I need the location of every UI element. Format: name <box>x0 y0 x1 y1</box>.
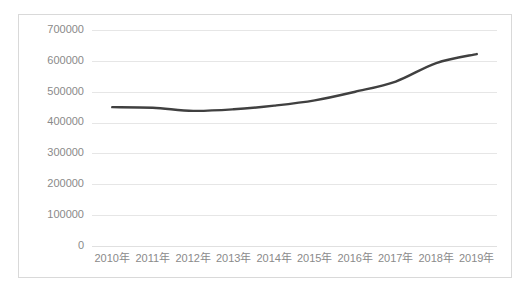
y-axis-tick-label: 100000 <box>47 208 84 220</box>
y-axis-tick-label: 500000 <box>47 85 84 97</box>
y-axis-tick-label: 300000 <box>47 146 84 158</box>
x-axis-tick-label: 2011年 <box>135 251 170 264</box>
y-axis-tick-label: 600000 <box>47 54 84 66</box>
x-axis-tick-label: 2018年 <box>419 251 454 264</box>
x-axis-tick-label: 2013年 <box>216 251 251 264</box>
x-axis-tick-label: 2016年 <box>338 251 373 264</box>
y-axis-tick-label: 0 <box>78 239 84 251</box>
y-axis-tick-label: 700000 <box>47 23 84 35</box>
line-chart-svg: 0100000200000300000400000500000600000700… <box>19 15 511 277</box>
chart-plot-container: 0100000200000300000400000500000600000700… <box>19 15 511 277</box>
x-axis-tick-label: 2012年 <box>176 251 211 264</box>
x-axis-tick-label: 2014年 <box>257 251 292 264</box>
x-axis-tick-label: 2010年 <box>95 251 130 264</box>
x-axis-tick-labels: 2010年2011年2012年2013年2014年2015年2016年2017年… <box>95 251 495 264</box>
x-axis-tick-label: 2019年 <box>459 251 494 264</box>
y-axis-tick-label: 400000 <box>47 115 84 127</box>
y-axis-tick-labels: 0100000200000300000400000500000600000700… <box>47 23 84 251</box>
data-series-group <box>112 54 477 111</box>
chart-frame: 0100000200000300000400000500000600000700… <box>18 14 512 278</box>
x-axis-tick-label: 2015年 <box>297 251 332 264</box>
x-axis-tick-label: 2017年 <box>378 251 413 264</box>
y-axis-tick-label: 200000 <box>47 177 84 189</box>
series-line <box>112 54 477 111</box>
